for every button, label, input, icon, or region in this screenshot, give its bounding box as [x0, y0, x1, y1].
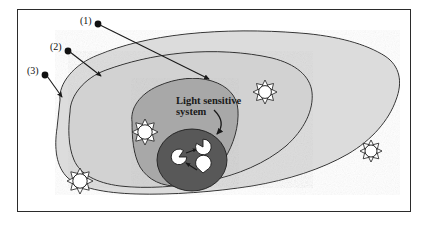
light-sensitive-system-caption: Light sensitive system: [176, 95, 260, 117]
diagram-figure: (1) (2) (3) Light sensitive system: [0, 0, 429, 230]
label-2: (2): [50, 41, 62, 52]
label-3: (3): [27, 65, 39, 76]
label-1: (1): [80, 15, 92, 26]
sun-icon-bottom-left: [67, 168, 93, 194]
core-dark: [157, 129, 227, 191]
sun-icon-left-mid: [132, 119, 158, 145]
leader-3: [42, 72, 62, 97]
sun-icon-right: [360, 140, 382, 162]
